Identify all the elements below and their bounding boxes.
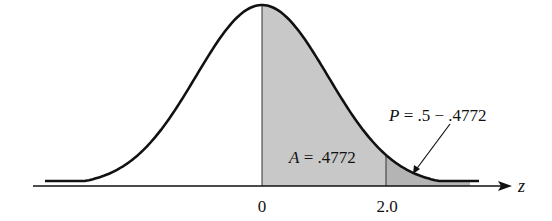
axis-label-z: z	[517, 176, 525, 196]
tick-label-zero: 0	[258, 197, 267, 216]
annotation-pointer	[415, 124, 450, 171]
p-label: P = .5 − .4772	[388, 106, 487, 125]
area-label: A = .4772	[288, 148, 356, 167]
tick-label-two: 2.0	[376, 197, 397, 216]
diagram-svg: A = .4772 P = .5 − .4772 0 2.0 z	[0, 0, 552, 221]
normal-curve-diagram: A = .4772 P = .5 − .4772 0 2.0 z	[0, 0, 552, 221]
